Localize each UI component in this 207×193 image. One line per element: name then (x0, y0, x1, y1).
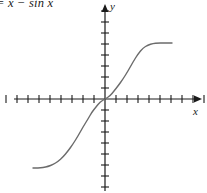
x-axis-arrowhead (194, 96, 202, 103)
x-axis-label: x (193, 106, 198, 117)
function-curve-group (33, 43, 172, 168)
function-curve (33, 43, 172, 168)
y-axis-label: y (110, 1, 115, 12)
graph-figure: = x − sin x y x (0, 0, 207, 193)
plot-area (0, 0, 207, 193)
